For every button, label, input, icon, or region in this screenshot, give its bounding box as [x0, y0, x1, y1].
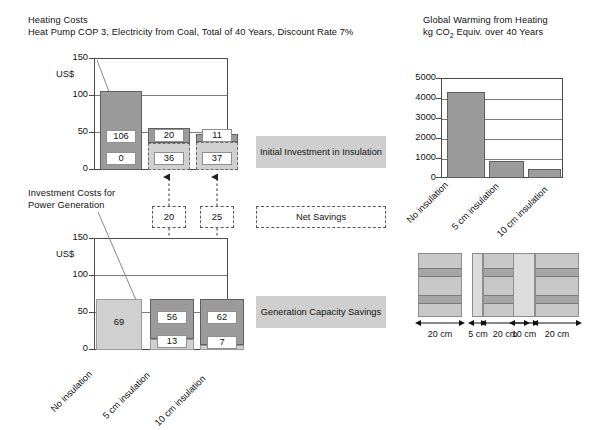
wall-dim-label-10cm: 10 cm [507, 329, 541, 339]
wall-dim-label-10cm-brick-20cm: 20 cm [540, 329, 574, 339]
wall-dim-label-no-insulation-20cm: 20 cm [420, 329, 460, 339]
wall-dimension-arrows [0, 0, 599, 430]
figure-canvas: Heating Costs Heat Pump COP 3, Electrici… [0, 0, 599, 430]
